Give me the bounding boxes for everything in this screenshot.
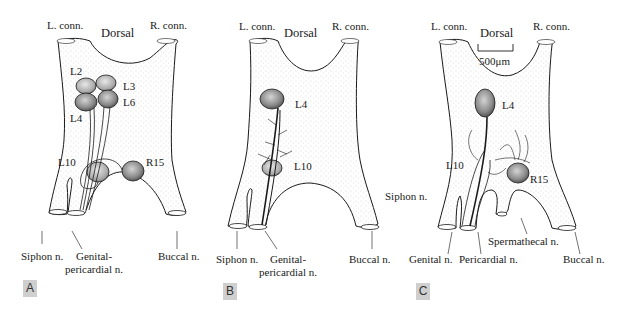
ganglion-outline-c — [438, 39, 576, 230]
label-l4: L4 — [502, 99, 514, 111]
label-spermathecal-n: Spermathecal n. — [488, 235, 559, 247]
panel-c: L. conn. Dorsal 500μm R. conn. L4 L10 R1… — [0, 0, 215, 322]
label-siphon-n: Siphon n. — [216, 253, 258, 265]
label-genital-pericardial-n-2: pericardial n. — [259, 266, 317, 278]
label-l10: L10 — [446, 159, 464, 171]
label-dorsal: Dorsal — [480, 27, 513, 39]
label-dorsal: Dorsal — [284, 27, 317, 39]
label-genital-pericardial-n-1: Genital- — [270, 253, 306, 265]
label-genital-n: Genital n. — [409, 253, 452, 265]
panel-tag-b: B — [223, 283, 237, 300]
label-l4: L4 — [295, 98, 307, 110]
label-r-conn: R. conn. — [332, 20, 369, 32]
label-buccal-n: Buccal n. — [563, 253, 605, 265]
label-r15: R15 — [530, 173, 548, 185]
panel-tag-c: C — [416, 283, 430, 300]
label-scale-bar: 500μm — [479, 55, 510, 67]
ganglion-outline-b — [228, 38, 379, 229]
label-l-conn: L. conn. — [239, 20, 275, 32]
label-r-conn: R. conn. — [533, 20, 570, 32]
label-buccal-n: Buccal n. — [349, 253, 391, 265]
label-l10: L10 — [294, 160, 312, 172]
label-pericardial-n: Pericardial n. — [459, 253, 518, 265]
label-siphon-n: Siphon n. — [385, 190, 427, 202]
label-l-conn: L. conn. — [431, 20, 467, 32]
